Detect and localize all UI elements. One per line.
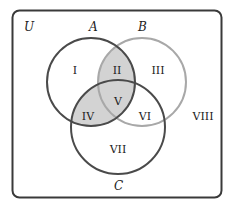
region-label-ii: II [113,64,122,77]
region-label-v: V [113,95,123,108]
set-c-label: C [114,179,123,193]
region-label-iv: IV [82,110,95,123]
region-label-viii: VIII [192,110,214,123]
region-label-vii: VII [109,143,127,156]
region-label-vi: VI [138,110,151,123]
region-label-i: I [73,64,77,77]
set-b-label: B [137,20,147,34]
set-a-label: A [88,20,98,34]
venn-diagram: U A B C I II III IV V VI VII VIII [0,0,234,212]
region-label-iii: III [151,64,164,77]
universe-label: U [24,20,35,34]
